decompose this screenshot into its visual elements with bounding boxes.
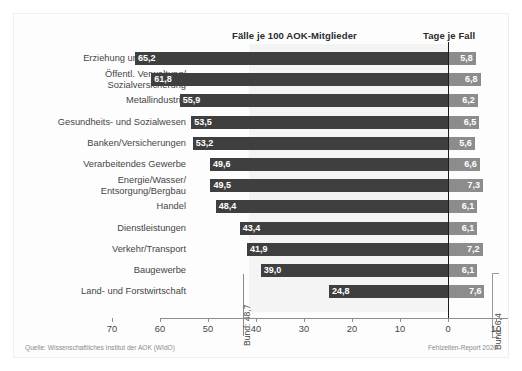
bar-value-tage: 5,8 xyxy=(460,52,473,65)
bar-row: Handel48,46,1 xyxy=(14,196,508,217)
bar-row: Verkehr/Transport41,97,2 xyxy=(14,239,508,260)
bar-value-faelle: 48,4 xyxy=(219,200,237,213)
bar-row: Baugewerbe39,06,1 xyxy=(14,260,508,281)
bar-faelle: 39,0 xyxy=(261,264,448,277)
bar-value-tage: 7,6 xyxy=(469,285,482,298)
category-label: Baugewerbe xyxy=(14,265,186,276)
bar-row: Verarbeitendes Gewerbe49,66,6 xyxy=(14,154,508,175)
bar-value-faelle: 49,5 xyxy=(213,179,231,192)
report-note: Fehlzeiten-Report 2020 xyxy=(428,344,497,351)
axis-tick-mark xyxy=(448,318,449,322)
bar-faelle: 53,2 xyxy=(193,137,448,150)
bar-row: Banken/Versicherungen53,25,6 xyxy=(14,133,508,154)
axis-tick-mark xyxy=(400,318,401,322)
category-label: Gesundheits- und Sozialwesen xyxy=(14,117,186,128)
bar-value-tage: 6,8 xyxy=(465,73,478,86)
bar-value-faelle: 43,4 xyxy=(243,222,261,235)
axis-tick-mark xyxy=(208,318,209,322)
bar-row: Erziehung und Unterricht65,25,8 xyxy=(14,48,508,69)
bar-faelle: 53,5 xyxy=(191,116,448,129)
category-label: Handel xyxy=(14,201,186,212)
axis-line xyxy=(161,318,508,319)
bar-faelle: 48,4 xyxy=(216,200,448,213)
bar-value-tage: 6,5 xyxy=(464,116,477,129)
axis-tick-label: 20 xyxy=(347,324,357,334)
bar-value-tage: 6,1 xyxy=(462,200,475,213)
bar-tage: 5,6 xyxy=(448,137,475,150)
bar-value-tage: 6,6 xyxy=(464,158,477,171)
axis-tick-label: 40 xyxy=(251,324,261,334)
bar-value-tage: 7,3 xyxy=(468,179,481,192)
category-label: Land- und Forstwirtschaft xyxy=(14,286,186,297)
bar-value-tage: 6,2 xyxy=(462,94,475,107)
axis-tick-mark xyxy=(256,318,257,322)
bar-row: Dienstleistungen43,46,1 xyxy=(14,218,508,239)
bar-value-tage: 5,6 xyxy=(459,137,472,150)
bar-faelle: 49,6 xyxy=(210,158,448,171)
bar-row: Land- und Forstwirtschaft24,87,6 xyxy=(14,281,508,302)
bar-value-faelle: 41,9 xyxy=(250,243,268,256)
plot-area: Erziehung und Unterricht65,25,8Öffentl. … xyxy=(14,44,508,316)
category-label: Verarbeitendes Gewerbe xyxy=(14,159,186,170)
source-note: Quelle: Wissenschaftliches Institut der … xyxy=(25,344,175,351)
axis-tick-label: 70 xyxy=(107,324,117,334)
bar-row: Gesundheits- und Sozialwesen53,56,5 xyxy=(14,112,508,133)
axis-tick-mark xyxy=(160,318,161,322)
category-label: Dienstleistungen xyxy=(14,223,186,234)
right-axis-title: Tage je Fall xyxy=(423,30,475,41)
axis-tick-mark xyxy=(304,318,305,322)
category-label: Verkehr/Transport xyxy=(14,244,186,255)
axis-tick-mark xyxy=(352,318,353,322)
category-label: Banken/Versicherungen xyxy=(14,138,186,149)
bar-value-faelle: 61,8 xyxy=(154,73,172,86)
bar-faelle: 49,5 xyxy=(210,179,448,192)
bar-tage: 6,1 xyxy=(448,222,477,235)
bar-tage: 6,1 xyxy=(448,200,477,213)
bar-tage: 7,3 xyxy=(448,179,483,192)
bar-faelle: 55,9 xyxy=(180,94,448,107)
bar-value-faelle: 65,2 xyxy=(138,52,156,65)
bar-value-faelle: 55,9 xyxy=(183,94,201,107)
bar-faelle: 61,8 xyxy=(151,73,448,86)
bar-tage: 6,5 xyxy=(448,116,479,129)
left-axis-title: Fälle je 100 AOK-Mitglieder xyxy=(232,30,357,41)
bar-tage: 6,2 xyxy=(448,94,478,107)
bar-value-faelle: 39,0 xyxy=(264,264,282,277)
bar-faelle: 43,4 xyxy=(240,222,448,235)
bar-tage: 6,8 xyxy=(448,73,481,86)
axis-tick-label: 60 xyxy=(155,324,165,334)
x-axis: 70605040302010010 xyxy=(14,318,508,342)
zero-axis-line xyxy=(448,42,449,318)
axis-tick-label: 0 xyxy=(445,324,450,334)
bar-tage: 5,8 xyxy=(448,52,476,65)
bar-row: Metallindustrie55,96,2 xyxy=(14,90,508,111)
bar-row: Öffentl. Verwaltung/ Sozialversicherung6… xyxy=(14,69,508,90)
category-label: Energie/Wasser/ Entsorgung/Bergbau xyxy=(14,175,186,196)
bar-tage: 6,1 xyxy=(448,264,477,277)
category-label: Metallindustrie xyxy=(14,95,186,106)
axis-tick-label: 10 xyxy=(395,324,405,334)
bar-tage: 7,2 xyxy=(448,243,483,256)
axis-tick-mark xyxy=(112,318,113,322)
bar-tage: 6,6 xyxy=(448,158,480,171)
bar-value-faelle: 49,6 xyxy=(213,158,231,171)
bar-faelle: 65,2 xyxy=(135,52,448,65)
bar-row: Energie/Wasser/ Entsorgung/Bergbau49,57,… xyxy=(14,175,508,196)
chart-figure: Fälle je 100 AOK-Mitglieder Tage je Fall… xyxy=(13,13,509,358)
bar-value-faelle: 24,8 xyxy=(332,285,350,298)
bar-tage: 7,6 xyxy=(448,285,484,298)
bar-faelle: 24,8 xyxy=(329,285,448,298)
bar-faelle: 41,9 xyxy=(247,243,448,256)
axis-tick-label: 10 xyxy=(491,324,501,334)
bar-value-tage: 7,2 xyxy=(467,243,480,256)
bar-value-faelle: 53,5 xyxy=(194,116,212,129)
axis-tick-label: 30 xyxy=(299,324,309,334)
axis-tick-mark xyxy=(496,318,497,322)
bar-value-tage: 6,1 xyxy=(462,264,475,277)
bar-value-tage: 6,1 xyxy=(462,222,475,235)
axis-tick-label: 50 xyxy=(203,324,213,334)
bar-value-faelle: 53,2 xyxy=(196,137,214,150)
